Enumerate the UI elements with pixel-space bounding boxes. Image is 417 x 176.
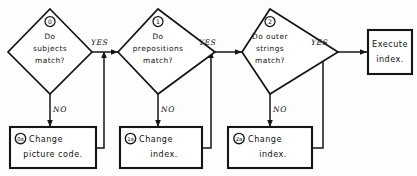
flowchart-svg: 0 Do subjects match? 1 Do prepositions m… xyxy=(0,0,417,176)
edge-label-no-1: NO xyxy=(160,105,175,114)
terminal-text-line1: Execute xyxy=(372,39,408,49)
decision-node-0[interactable]: 0 Do subjects match? xyxy=(8,9,92,94)
arrowhead-no-1 xyxy=(155,120,161,127)
decision-text-2-line1: Do outer xyxy=(252,32,288,41)
terminal-node[interactable]: Execute index. xyxy=(368,30,412,74)
decision-text-2-line2: strings xyxy=(256,44,284,53)
decision-node-1[interactable]: 1 Do prepositions match? xyxy=(118,9,215,94)
action-text-0-line2: picture code. xyxy=(23,149,82,159)
action-text-1-line1: Change xyxy=(139,134,173,144)
arrowhead-no-2 xyxy=(267,120,273,127)
decision-text-0-line1: Do xyxy=(44,32,55,41)
decision-tag-2: 2 xyxy=(268,18,272,25)
action-tag-0: 0a xyxy=(17,136,24,142)
action-text-2-line1: Change xyxy=(248,134,282,144)
edge-loop-0 xyxy=(96,57,104,148)
decision-tag-0: 0 xyxy=(48,18,52,25)
action-node-1[interactable]: 1a Change index. xyxy=(120,127,202,168)
edge-label-yes-0: YES xyxy=(91,38,108,47)
arrowhead-yes-1 xyxy=(235,49,242,55)
edge-label-no-0: NO xyxy=(52,105,67,114)
edge-label-yes-2: YES xyxy=(311,38,328,47)
action-tag-2: 2a xyxy=(236,136,243,142)
decision-text-0-line3: match? xyxy=(35,56,65,65)
action-text-0-line1: Change xyxy=(29,134,63,144)
terminal-text-line2: index. xyxy=(376,54,404,64)
decision-text-1-line2: prepositions xyxy=(133,44,184,53)
decision-text-0-line2: subjects xyxy=(33,44,67,53)
decision-text-1-line1: Do xyxy=(152,32,163,41)
action-text-2-line2: index. xyxy=(259,149,287,159)
arrowhead-no-0 xyxy=(47,120,53,127)
edge-loop-1 xyxy=(202,57,211,148)
flowchart-canvas: 0 Do subjects match? 1 Do prepositions m… xyxy=(0,0,417,176)
action-text-1-line2: index. xyxy=(150,149,178,159)
action-node-0[interactable]: 0a Change picture code. xyxy=(10,127,96,168)
edge-label-no-2: NO xyxy=(272,105,287,114)
decision-tag-1: 1 xyxy=(156,18,160,25)
action-node-2[interactable]: 2a Change index. xyxy=(228,127,312,168)
action-tag-1: 1a xyxy=(127,136,134,142)
edge-loop-2 xyxy=(312,57,323,148)
decision-text-2-line3: match? xyxy=(255,56,285,65)
terminal-shape xyxy=(368,30,412,74)
edge-label-yes-1: YES xyxy=(199,38,216,47)
arrowhead-yes-2 xyxy=(360,49,367,55)
decision-text-1-line3: match? xyxy=(143,56,173,65)
